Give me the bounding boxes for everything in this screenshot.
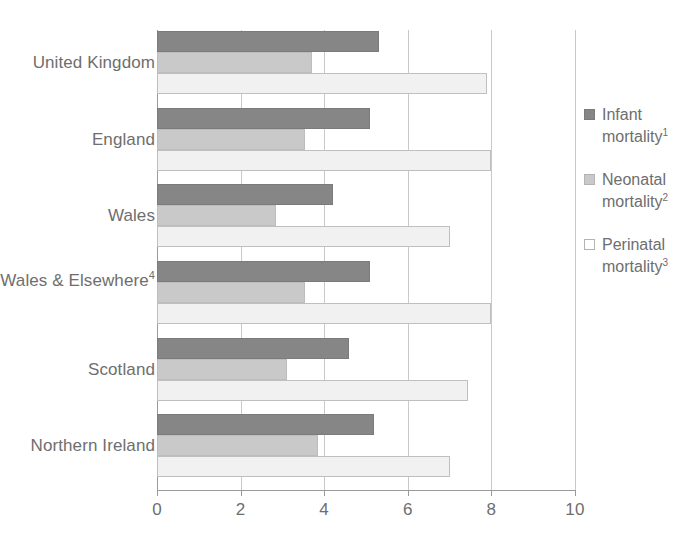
bar-infant-mortality — [157, 108, 370, 129]
bar-perinatal-mortality — [157, 303, 491, 324]
legend-swatch-perinatal — [584, 239, 595, 250]
x-tick-label: 8 — [471, 500, 511, 520]
bar-perinatal-mortality — [157, 226, 450, 247]
bar-chart: 0246810 United KingdomEnglandWalesEnglan… — [0, 0, 691, 540]
tick-mark-8 — [491, 490, 492, 496]
bar-group — [157, 108, 575, 171]
category-label: Wales — [0, 204, 155, 227]
bar-infant-mortality — [157, 338, 349, 359]
tick-mark-2 — [241, 490, 242, 496]
bar-perinatal-mortality — [157, 73, 487, 94]
x-tick-label: 4 — [304, 500, 344, 520]
bar-neonatal-mortality — [157, 52, 312, 73]
category-label: Scotland — [0, 358, 155, 381]
x-tick-label: 2 — [221, 500, 261, 520]
bar-infant-mortality — [157, 184, 333, 205]
bar-group — [157, 338, 575, 401]
tick-mark-6 — [408, 490, 409, 496]
x-tick-label: 0 — [137, 500, 177, 520]
bar-neonatal-mortality — [157, 205, 276, 226]
category-label: Northern Ireland — [0, 434, 155, 457]
bar-group — [157, 261, 575, 324]
legend-swatch-infant — [584, 109, 595, 120]
bar-group — [157, 184, 575, 247]
bar-group — [157, 31, 575, 94]
category-label: England, Wales & Elsewhere4 — [0, 269, 155, 292]
legend-item: Infant mortality1 — [584, 104, 689, 148]
tick-mark-4 — [324, 490, 325, 496]
x-tick-label: 10 — [555, 500, 595, 520]
bar-infant-mortality — [157, 414, 374, 435]
bar-infant-mortality — [157, 31, 379, 52]
bar-neonatal-mortality — [157, 359, 287, 380]
bar-perinatal-mortality — [157, 150, 491, 171]
tick-mark-10 — [575, 490, 576, 496]
bar-perinatal-mortality — [157, 456, 450, 477]
legend-label: Neonatal mortality2 — [602, 171, 668, 210]
bar-neonatal-mortality — [157, 282, 305, 303]
legend-item: Perinatal mortality3 — [584, 234, 689, 278]
category-label: England — [0, 128, 155, 151]
bar-infant-mortality — [157, 261, 370, 282]
legend-label: Perinatal mortality3 — [602, 236, 668, 275]
bar-neonatal-mortality — [157, 129, 305, 150]
legend-label: Infant mortality1 — [602, 106, 668, 145]
bar-neonatal-mortality — [157, 435, 318, 456]
x-tick-label: 6 — [388, 500, 428, 520]
gridline-10 — [575, 30, 576, 490]
bar-group — [157, 414, 575, 477]
legend-swatch-neonatal — [584, 174, 595, 185]
plot-area — [157, 30, 575, 490]
bar-perinatal-mortality — [157, 380, 468, 401]
x-axis-line — [157, 490, 575, 491]
category-label: United Kingdom — [0, 51, 155, 74]
tick-mark-0 — [157, 490, 158, 496]
chart-legend: Infant mortality1Neonatal mortality2Peri… — [584, 104, 689, 299]
legend-item: Neonatal mortality2 — [584, 169, 689, 213]
